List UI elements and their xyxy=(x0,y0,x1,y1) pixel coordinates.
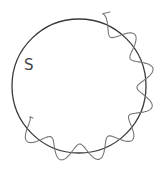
wavy-boundary-curve xyxy=(25,12,153,160)
diagram-canvas: S xyxy=(0,0,166,170)
region-circle xyxy=(12,19,146,153)
region-label-s: S xyxy=(24,56,34,74)
